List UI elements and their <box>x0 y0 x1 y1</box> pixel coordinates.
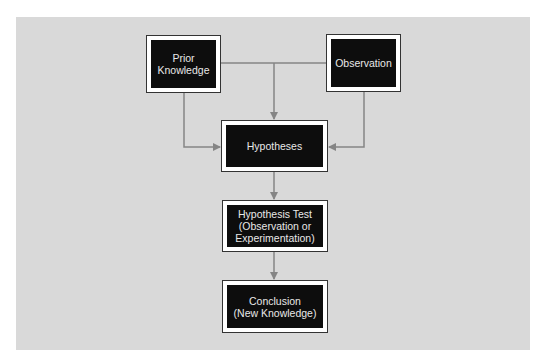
node-hypothesis-test: Hypothesis Test (Observation or Experime… <box>222 200 328 252</box>
node-conclusion: Conclusion (New Knowledge) <box>222 280 328 333</box>
node-label: Observation <box>331 39 396 87</box>
node-hypotheses: Hypotheses <box>221 120 328 172</box>
node-label: Hypothesis Test (Observation or Experime… <box>227 205 323 247</box>
connector-prior-to-hypotheses <box>184 93 220 147</box>
node-observation: Observation <box>326 34 401 92</box>
node-label: Conclusion (New Knowledge) <box>227 285 323 328</box>
node-label: Hypotheses <box>226 125 323 167</box>
node-label: Prior Knowledge <box>151 40 216 88</box>
connector-observation-to-hypotheses <box>329 92 364 147</box>
node-prior-knowledge: Prior Knowledge <box>146 35 221 93</box>
